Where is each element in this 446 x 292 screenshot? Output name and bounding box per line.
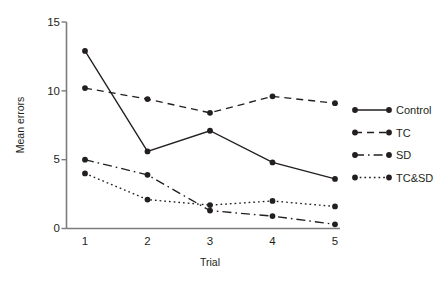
legend-marker — [352, 175, 358, 181]
data-series-layer — [82, 48, 338, 227]
y-axis-title: Mean errors — [14, 97, 26, 154]
series-tc-sd — [82, 171, 338, 210]
legend-label: TC&SD — [396, 172, 433, 184]
data-point — [207, 128, 213, 134]
legend-label: SD — [396, 149, 411, 161]
chart-legend: ControlTCSDTC&SD — [352, 104, 433, 184]
data-point — [332, 100, 338, 106]
x-tick-label-1: 1 — [82, 235, 88, 247]
y-tick-label-15: 15 — [47, 16, 60, 28]
y-tick-label-0: 0 — [54, 222, 60, 234]
data-point — [145, 172, 151, 178]
data-point — [82, 171, 88, 177]
x-tick-label-3: 3 — [207, 235, 213, 247]
figure-container: 15 10 5 0 1 2 3 4 5 Trial Mean errors Co… — [0, 0, 446, 292]
data-point — [270, 213, 276, 219]
legend-item-control[interactable]: Control — [352, 104, 431, 116]
y-tick-label-5: 5 — [54, 153, 60, 165]
y-tick-label-10: 10 — [47, 85, 60, 97]
data-point — [207, 208, 213, 214]
legend-marker — [386, 152, 392, 158]
legend-label: TC — [396, 127, 411, 139]
series-tc — [82, 85, 338, 116]
data-point — [332, 176, 338, 182]
line-chart: 15 10 5 0 1 2 3 4 5 Trial Mean errors Co… — [0, 0, 446, 292]
legend-marker — [352, 130, 358, 136]
x-tick-label-4: 4 — [269, 235, 276, 247]
data-point — [270, 198, 276, 204]
legend-marker — [386, 130, 392, 136]
x-tick-label-5: 5 — [332, 235, 338, 247]
data-point — [270, 93, 276, 99]
series-line — [85, 173, 335, 206]
legend-label: Control — [396, 104, 431, 116]
x-tick-label-2: 2 — [144, 235, 150, 247]
legend-marker — [386, 175, 392, 181]
data-point — [270, 160, 276, 166]
data-point — [145, 96, 151, 102]
legend-item-tc-sd[interactable]: TC&SD — [352, 172, 433, 184]
data-point — [207, 202, 213, 208]
data-point — [82, 85, 88, 91]
series-line — [85, 88, 335, 113]
legend-item-tc[interactable]: TC — [352, 127, 411, 139]
data-point — [207, 110, 213, 116]
data-point — [82, 157, 88, 163]
caption-strip — [0, 279, 446, 292]
series-sd — [82, 157, 338, 228]
legend-marker — [352, 107, 358, 113]
data-point — [332, 204, 338, 210]
legend-item-sd[interactable]: SD — [352, 149, 411, 161]
legend-marker — [352, 152, 358, 158]
data-point — [145, 149, 151, 155]
data-point — [332, 221, 338, 227]
x-axis-title: Trial — [200, 256, 220, 268]
data-point — [145, 197, 151, 203]
data-point — [82, 48, 88, 54]
legend-marker — [386, 107, 392, 113]
